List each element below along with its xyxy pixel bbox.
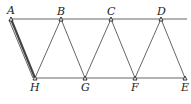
label-A: A [6,4,15,17]
edge-CF [111,19,135,78]
edge-AH [11,19,35,78]
label-G: G [81,81,90,94]
node-A-icon [9,17,13,21]
label-B: B [56,5,65,18]
edge-DE [161,19,185,78]
label-H: H [29,81,40,94]
label-D: D [156,5,166,18]
node-E-icon [183,76,187,80]
edge-BG [61,19,85,78]
diagonals [9,19,185,78]
label-F: F [130,81,139,94]
edge-GC [85,19,111,78]
truss-diagram: A B C D H G F E [0,0,191,104]
label-E: E [180,81,189,94]
label-C: C [107,5,116,18]
node-F-icon [133,76,137,80]
edge-HB [35,19,61,78]
edge-AH-double [9,20,33,78]
node-G-icon [83,76,87,80]
edge-FD [135,19,161,78]
